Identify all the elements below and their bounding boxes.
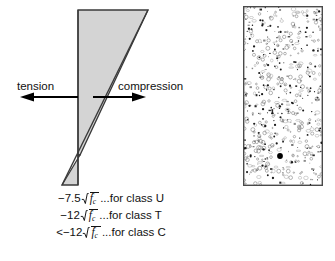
compression-label: compression xyxy=(118,80,183,92)
radicand-c: f′c xyxy=(91,226,101,239)
formula-t-suffix: ...for class T xyxy=(99,209,161,221)
tension-arrow xyxy=(20,93,78,102)
section-outline xyxy=(244,7,323,186)
stress-diagram xyxy=(0,0,220,200)
radicand-u: f′c xyxy=(90,192,100,205)
radical-tick-icon xyxy=(80,210,88,221)
formula-t-coefficient: −12 xyxy=(60,209,80,221)
figure-container: tension compression −7.5f′c...for class … xyxy=(0,0,335,261)
radical-c: f′c xyxy=(82,226,102,239)
formula-c-suffix: ...for class C xyxy=(102,226,166,238)
radical-tick-icon xyxy=(81,193,89,204)
formula-c-coefficient: <−12 xyxy=(56,226,82,238)
radical-u: f′c xyxy=(81,192,101,205)
fc-symbol-c: f′c xyxy=(91,226,101,238)
fc-symbol-u: f′c xyxy=(90,192,100,204)
formula-class-c: <−12f′c...for class C xyxy=(0,224,222,241)
radical-t: f′c xyxy=(80,209,100,222)
formula-u-suffix: ...for class U xyxy=(100,192,164,204)
fc-symbol-t: f′c xyxy=(89,209,99,221)
formula-class-t: −12f′c...for class T xyxy=(0,207,222,224)
formula-class-u: −7.5f′c...for class U xyxy=(0,190,222,207)
concrete-section-svg xyxy=(243,6,323,186)
concrete-section xyxy=(243,6,323,186)
formula-list: −7.5f′c...for class U −12f′c...for class… xyxy=(0,190,222,241)
tendon-marker xyxy=(277,153,283,159)
tension-label: tension xyxy=(17,80,54,92)
radicand-t: f′c xyxy=(89,209,99,222)
radical-tick-icon xyxy=(82,227,90,238)
formula-u-coefficient: −7.5 xyxy=(58,192,81,204)
